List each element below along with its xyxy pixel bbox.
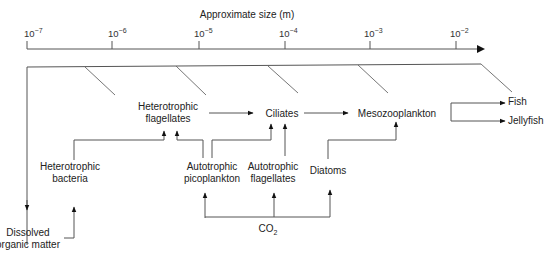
tick-label: 10−6 xyxy=(108,27,127,39)
dom-bracket xyxy=(27,64,512,245)
bracket-branch xyxy=(176,66,206,95)
node-jellyfish: Jellyfish xyxy=(508,115,544,126)
node-fish: Fish xyxy=(508,96,527,107)
edge-dom-to-bacteria xyxy=(64,207,74,238)
axis-arrowhead xyxy=(477,45,485,53)
node-heterotrophic-flagellates: Heterotrophicflagellates xyxy=(138,101,198,124)
node-autotrophic-flagellates: Autotrophicflagellates xyxy=(248,161,299,184)
bracket-branch xyxy=(85,67,115,95)
node-mesozooplankton: Mesozooplankton xyxy=(358,108,436,119)
edge-diatoms-to-meso xyxy=(328,122,396,159)
bracket-branch xyxy=(481,64,512,92)
bracket-branch xyxy=(268,66,298,93)
edge-meso-to-fish xyxy=(451,103,505,114)
tick-label: 10−4 xyxy=(279,27,298,39)
node-autotrophic-picoplankton: Autotrophicpicoplankton xyxy=(184,161,240,184)
node-diatoms: Diatoms xyxy=(310,165,347,176)
node-dissolved-organic-matter: Dissolvedorganic matter xyxy=(0,227,61,250)
bracket-line xyxy=(27,64,481,245)
node-heterotrophic-bacteria: Heterotrophicbacteria xyxy=(40,161,100,184)
edge-bacteria-to-hetflag xyxy=(74,131,164,160)
bracket-branch xyxy=(358,65,388,93)
tick-label: 10−7 xyxy=(24,27,43,39)
edge-co2-to-diatoms xyxy=(205,190,330,217)
size-axis: Approximate size (m) 10−7 10−6 10−5 10−4… xyxy=(24,9,485,53)
node-ciliates: Ciliates xyxy=(266,108,299,119)
edge-pico-to-ciliates xyxy=(212,124,271,158)
food-web-diagram: Approximate size (m) 10−7 10−6 10−5 10−4… xyxy=(0,0,553,256)
axis-title: Approximate size (m) xyxy=(200,9,294,20)
tick-label: 10−3 xyxy=(364,27,383,39)
node-co2: CO2 xyxy=(259,223,278,236)
edge-meso-to-jellyfish xyxy=(451,114,505,121)
edge-pico-to-hetflag xyxy=(177,131,203,158)
tick-label: 10−2 xyxy=(450,27,469,39)
tick-label: 10−5 xyxy=(194,27,213,39)
